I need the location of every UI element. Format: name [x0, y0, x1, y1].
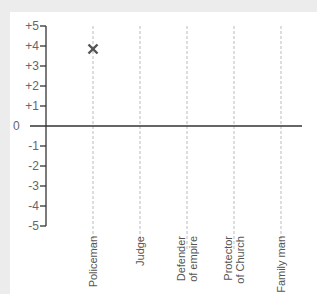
- category-label: Judge: [134, 236, 146, 266]
- y-tick-label: +3: [25, 59, 39, 73]
- category-label: Protector: [222, 236, 234, 281]
- y-tick-label: -4: [28, 199, 39, 213]
- y-tick-label: +2: [25, 79, 39, 93]
- y-tick-label: -3: [28, 179, 39, 193]
- y-tick-label: -1: [28, 139, 39, 153]
- category-label: Family man: [275, 236, 287, 293]
- chart: +5+4+3+2+10-1-2-3-4-5PolicemanJudgeDefen…: [0, 0, 317, 294]
- y-tick-label: -2: [28, 159, 39, 173]
- y-tick-label: -5: [28, 219, 39, 233]
- y-tick-label: 0: [13, 119, 20, 133]
- y-tick-label: +1: [25, 99, 39, 113]
- category-label: Policeman: [87, 236, 99, 287]
- y-tick-label: +5: [25, 19, 39, 33]
- category-label: of empire: [187, 236, 199, 282]
- category-label: of Church: [234, 236, 246, 284]
- category-label: Defender: [175, 236, 187, 282]
- y-tick-label: +4: [25, 39, 39, 53]
